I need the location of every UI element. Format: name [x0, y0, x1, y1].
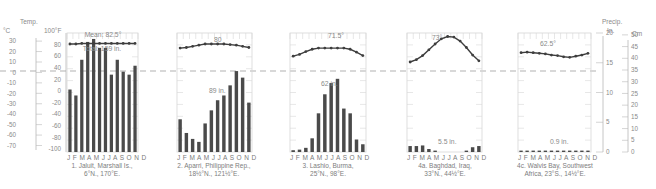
precip-bar — [580, 151, 583, 152]
precip-bar — [574, 151, 577, 152]
precip-bar — [80, 60, 83, 152]
cm-tick-label: 40 — [631, 54, 639, 61]
temperature-line-4c — [521, 52, 588, 57]
caption-station-1-coords: 6°N., 170°E. — [52, 170, 152, 178]
precip-bar — [532, 151, 535, 152]
cm-tick-label: 25 — [631, 90, 639, 97]
fahrenheit-tick-label: 40 — [54, 64, 62, 71]
temperature-line-2 — [180, 44, 249, 48]
temperature-point — [574, 55, 577, 58]
cm-tick-label: 45 — [631, 43, 639, 50]
precip-bar — [433, 151, 436, 152]
temperature-point — [434, 43, 437, 46]
precip-bar — [304, 148, 307, 152]
precip-bar — [323, 94, 326, 152]
temperature-point — [241, 45, 244, 48]
temperature-line-3 — [293, 48, 363, 56]
caption-station-1: 1. Jaluit, Marshall Is., 6°N., 170°E. — [52, 162, 152, 177]
cm-tick-label: 20 — [631, 101, 639, 108]
precip-axis-title: Precip. — [602, 18, 622, 26]
cm-tick-label: 15 — [631, 113, 639, 120]
temperature-point — [587, 52, 590, 55]
precip-bar — [415, 146, 418, 152]
temperature-point — [330, 47, 333, 50]
caption-station-4-coords: 33°N., 44½°E. — [395, 170, 495, 178]
precip-bar — [329, 83, 332, 152]
temperature-point — [74, 43, 77, 46]
precip-bar — [477, 146, 480, 152]
celsius-tick-label: 0 — [12, 69, 16, 76]
celsius-unit-label: °C — [3, 27, 11, 34]
precip-bar — [98, 48, 101, 152]
fahrenheit-tick-label: 80 — [54, 41, 62, 48]
temperature-point — [179, 47, 182, 50]
precip-bar — [86, 42, 89, 152]
temp-mean-label-4c: 62.5° — [540, 40, 556, 47]
month-labels-4: J F M A M J J A S O N D — [407, 154, 483, 161]
temperature-point — [361, 54, 364, 57]
fahrenheit-tick-label: -20 — [52, 99, 62, 106]
temperature-point — [134, 42, 137, 45]
precip-bar — [471, 147, 474, 152]
caption-station-3: 3. Lashio, Burma, 25°N., 98°E. — [278, 162, 378, 177]
precip-bar — [235, 71, 238, 152]
temp-mean-label-2: 80 — [214, 36, 222, 43]
precip-bar — [178, 119, 181, 152]
temperature-point — [336, 47, 339, 50]
inch-tick-label: 0 — [606, 148, 610, 155]
temperature-point — [317, 47, 320, 50]
precip-bar — [241, 78, 244, 152]
temperature-point — [415, 58, 418, 61]
precip-bar — [127, 75, 130, 152]
temperature-point — [304, 50, 307, 53]
precip-bar — [116, 60, 119, 152]
cm-tick-label: 50 — [631, 31, 639, 38]
temperature-point — [355, 51, 358, 54]
inch-tick-label: 10 — [606, 89, 614, 96]
temperature-point — [532, 51, 535, 54]
month-labels-3: J F M A M J J A S O N D — [290, 154, 366, 161]
caption-station-4: 4a. Baghdad, Iraq, 33°N., 44½°E. — [395, 162, 495, 177]
precip-bar — [562, 151, 565, 152]
precip-bar — [92, 39, 95, 152]
temperature-point — [556, 54, 559, 57]
precip-bar — [291, 150, 294, 152]
precip-bar — [317, 113, 320, 152]
celsius-tick-label: 10 — [9, 58, 17, 65]
temp-mean-label-3: 71.5° — [328, 32, 344, 39]
precip-bar — [122, 72, 125, 152]
cm-tick-label: 30 — [631, 78, 639, 85]
precip-bar — [336, 79, 339, 152]
precip-total-label-3: 62 in. — [321, 80, 338, 87]
temperature-point — [427, 48, 430, 51]
temperature-point — [465, 46, 468, 49]
precip-total-label-1: Total: 159 in. — [83, 45, 122, 52]
precip-bar — [133, 66, 136, 152]
fahrenheit-tick-label: -80 — [52, 134, 62, 141]
temp-mean-label-1: Mean: 82.5° — [85, 31, 122, 38]
temperature-point — [222, 43, 225, 46]
fahrenheit-tick-label: -40 — [52, 110, 62, 117]
precip-bar — [298, 150, 301, 152]
temperature-line-4a — [410, 36, 479, 62]
caption-station-2-name: 2. Aparri, Philippine Rep., — [164, 162, 264, 170]
temperature-point — [446, 35, 449, 38]
precip-bar — [185, 133, 188, 152]
temperature-point — [477, 59, 480, 62]
celsius-tick-label: 20 — [9, 48, 17, 55]
caption-station-5: 4c. Walvis Bay, Southwest Africa, 23°S.,… — [505, 162, 605, 177]
cm-tick-label: 10 — [631, 125, 639, 132]
precip-bar — [568, 151, 571, 152]
precip-bar — [110, 75, 113, 152]
precip-bar — [355, 140, 358, 152]
fahrenheit-tick-label: 20 — [54, 76, 62, 83]
temperature-point — [580, 54, 583, 57]
precip-bar — [197, 142, 200, 152]
inch-tick-label: 5 — [606, 118, 610, 125]
precip-bar — [74, 95, 77, 152]
precip-bar — [68, 90, 71, 152]
fahrenheit-tick-label: 60 — [54, 52, 62, 59]
cm-tick-label: 0 — [631, 148, 635, 155]
precip-total-label-2: 89 in. — [209, 87, 226, 94]
fahrenheit-tick-label: -100 — [48, 145, 61, 152]
